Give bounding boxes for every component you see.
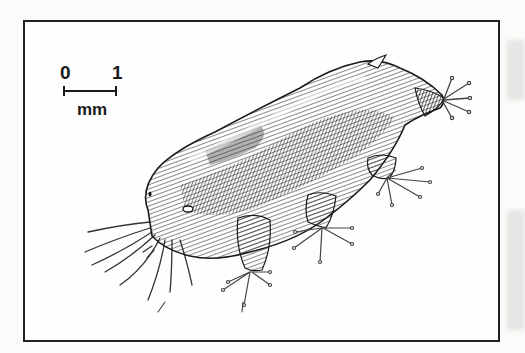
leg-rear [368, 155, 432, 207]
creature-illustration [0, 0, 525, 353]
snout-rays [443, 76, 472, 119]
eye [183, 206, 193, 212]
